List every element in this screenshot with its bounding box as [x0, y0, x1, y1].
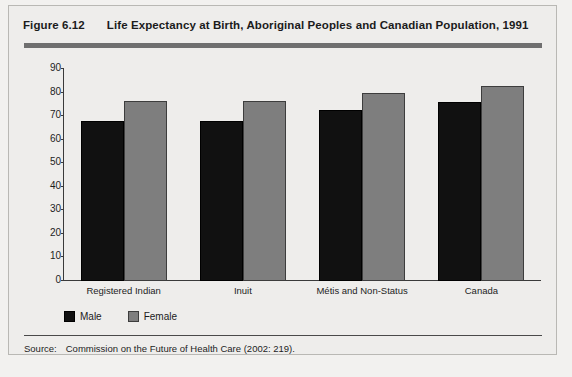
source-row: Source: Commission on the Future of Heal… [24, 343, 295, 354]
bar-female-3 [481, 86, 524, 282]
figure-header: Figure 6.12 Life Expectancy at Birth, Ab… [23, 19, 543, 39]
source-rule [24, 335, 542, 336]
legend-item-male: Male [64, 311, 102, 322]
bar-male-0 [81, 121, 124, 281]
y-axis-tick-label: 40 [27, 181, 61, 191]
bar-male-3 [438, 102, 481, 281]
y-axis-tick-label: 20 [27, 228, 61, 238]
bar-female-0 [124, 101, 167, 281]
legend-swatch-icon [64, 311, 75, 322]
y-axis-tick-label: 60 [27, 134, 61, 144]
figure-root: Figure 6.12 Life Expectancy at Birth, Ab… [0, 0, 572, 377]
bar-female-2 [362, 93, 405, 281]
y-axis-tick-label: 70 [27, 110, 61, 120]
legend-swatch-icon [128, 311, 139, 322]
x-axis-label: Inuit [183, 285, 302, 296]
chart-plot-area: 0102030405060708090 Registered IndianInu… [23, 61, 543, 301]
legend-label: Male [80, 311, 102, 322]
y-axis-ticks: 0102030405060708090 [23, 61, 61, 301]
source-label: Source: [24, 343, 57, 354]
bar-male-1 [200, 121, 243, 281]
legend-label: Female [144, 311, 177, 322]
x-axis-label: Métis and Non-Status [303, 285, 422, 296]
x-axis-label: Registered Indian [64, 285, 183, 296]
figure-title: Life Expectancy at Birth, Aboriginal Peo… [107, 19, 529, 31]
legend-item-female: Female [128, 311, 177, 322]
figure-number: Figure 6.12 [23, 19, 85, 31]
chart-legend: MaleFemale [64, 309, 203, 323]
bar-male-2 [319, 110, 362, 281]
source-text: Commission on the Future of Health Care … [66, 343, 295, 354]
figure-box: Figure 6.12 Life Expectancy at Birth, Ab… [8, 5, 557, 355]
y-axis-tick-label: 80 [27, 87, 61, 97]
bar-female-1 [243, 101, 286, 281]
x-axis-labels: Registered IndianInuitMétis and Non-Stat… [64, 285, 541, 303]
title-rule [24, 43, 542, 48]
y-axis-tick-label: 90 [27, 63, 61, 73]
y-axis-tick-label: 50 [27, 157, 61, 167]
y-axis-tick-label: 10 [27, 251, 61, 261]
y-axis-tick-label: 0 [27, 275, 61, 285]
plot-inner: 0102030405060708090 Registered IndianInu… [23, 61, 543, 301]
y-axis-tick-label: 30 [27, 204, 61, 214]
bars-layer [64, 61, 541, 281]
x-axis-label: Canada [422, 285, 541, 296]
